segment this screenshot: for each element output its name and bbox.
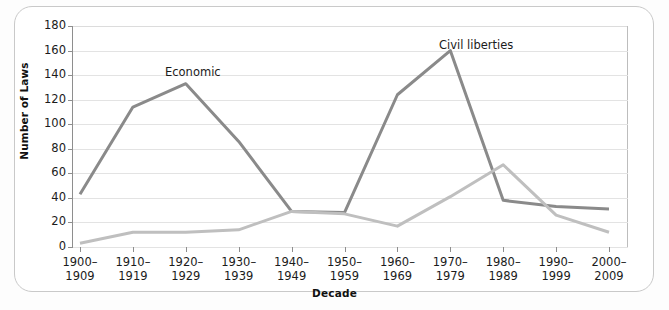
y-tick-value: 180: [26, 20, 66, 31]
y-tick-value: 120: [26, 94, 66, 105]
y-tick-value: 140: [26, 69, 66, 80]
y-tick-value: 60: [26, 167, 66, 178]
y-tick-value: 20: [26, 216, 66, 227]
y-tick-label: 0: [22, 241, 66, 252]
series-label-civil-liberties: Civil liberties: [439, 38, 513, 52]
x-tick-label-bottom: 2009: [570, 270, 648, 284]
y-tick-label: 40: [22, 192, 66, 203]
y-tick-value: 100: [26, 118, 66, 129]
y-tick-value: 0: [26, 241, 66, 252]
y-tick-value: 160: [26, 45, 66, 56]
series-label-economic: Economic: [165, 65, 221, 79]
series-lines: [72, 26, 628, 248]
y-tick-label: 20: [22, 216, 66, 227]
x-tick-label-top: 2000–: [570, 256, 648, 270]
y-tick-value: 40: [26, 192, 66, 203]
y-tick-value: 80: [26, 143, 66, 154]
figure-root: 020406080100120140160180 1900–19091910–1…: [0, 0, 669, 310]
y-tick-label: 180: [22, 20, 66, 31]
x-tick-label: 2000–2009: [570, 256, 648, 283]
x-axis-title: Decade: [0, 287, 669, 299]
y-axis-title: Number of Laws: [18, 41, 30, 181]
